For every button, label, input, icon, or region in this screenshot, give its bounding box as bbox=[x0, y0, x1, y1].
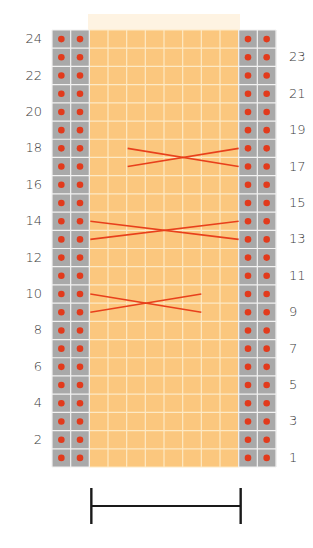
edge-stitch-dot-icon bbox=[58, 72, 65, 79]
edge-stitch-dot-icon bbox=[245, 127, 252, 134]
edge-stitch-dot-icon bbox=[77, 236, 84, 243]
edge-stitch-dot-icon bbox=[245, 218, 252, 225]
edge-stitch-dot-icon bbox=[77, 436, 84, 443]
edge-stitch-dot-icon bbox=[263, 254, 270, 261]
edge-stitch-dot-icon bbox=[77, 109, 84, 116]
top-faint-band bbox=[88, 14, 240, 30]
edge-stitch-dot-icon bbox=[263, 163, 270, 170]
edge-stitch-dot-icon bbox=[245, 418, 252, 425]
row-label-21: 21 bbox=[289, 86, 313, 102]
row-label-18: 18 bbox=[12, 140, 42, 156]
row-label-11: 11 bbox=[289, 268, 313, 284]
edge-stitch-dot-icon bbox=[58, 54, 65, 61]
row-label-6: 6 bbox=[12, 359, 42, 375]
edge-stitch-dot-icon bbox=[263, 218, 270, 225]
row-label-8: 8 bbox=[12, 322, 42, 338]
edge-stitch-dot-icon bbox=[58, 36, 65, 43]
row-label-7: 7 bbox=[289, 341, 313, 357]
edge-stitch-dot-icon bbox=[245, 181, 252, 188]
row-label-5: 5 bbox=[289, 377, 313, 393]
edge-stitch-dot-icon bbox=[263, 181, 270, 188]
edge-stitch-dot-icon bbox=[245, 436, 252, 443]
repeat-bracket bbox=[91, 488, 240, 524]
edge-stitch-dot-icon bbox=[263, 455, 270, 462]
edge-stitch-dot-icon bbox=[263, 345, 270, 352]
edge-stitch-dot-icon bbox=[58, 145, 65, 152]
edge-stitch-dot-icon bbox=[263, 54, 270, 61]
row-label-16: 16 bbox=[12, 177, 42, 193]
row-label-10: 10 bbox=[12, 286, 42, 302]
edge-stitch-dot-icon bbox=[77, 54, 84, 61]
edge-stitch-dot-icon bbox=[58, 218, 65, 225]
edge-stitch-dot-icon bbox=[245, 72, 252, 79]
edge-stitch-dot-icon bbox=[245, 109, 252, 116]
row-label-3: 3 bbox=[289, 413, 313, 429]
row-label-23: 23 bbox=[289, 49, 313, 65]
edge-stitch-dot-icon bbox=[263, 382, 270, 389]
row-label-9: 9 bbox=[289, 304, 313, 320]
edge-stitch-dot-icon bbox=[58, 291, 65, 298]
edge-stitch-dot-icon bbox=[245, 54, 252, 61]
edge-stitch-dot-icon bbox=[77, 364, 84, 371]
edge-stitch-dot-icon bbox=[77, 254, 84, 261]
edge-stitch-dot-icon bbox=[245, 36, 252, 43]
row-label-1: 1 bbox=[289, 450, 313, 466]
row-label-15: 15 bbox=[289, 195, 313, 211]
edge-stitch-dot-icon bbox=[245, 309, 252, 316]
edge-stitch-dot-icon bbox=[58, 200, 65, 207]
edge-stitch-dot-icon bbox=[58, 254, 65, 261]
row-label-14: 14 bbox=[12, 213, 42, 229]
edge-stitch-dot-icon bbox=[263, 418, 270, 425]
knitting-chart bbox=[0, 0, 313, 548]
edge-stitch-dot-icon bbox=[263, 109, 270, 116]
edge-stitch-dot-icon bbox=[245, 145, 252, 152]
row-label-19: 19 bbox=[289, 122, 313, 138]
edge-stitch-dot-icon bbox=[263, 364, 270, 371]
edge-stitch-dot-icon bbox=[77, 200, 84, 207]
edge-stitch-dot-icon bbox=[58, 400, 65, 407]
edge-stitch-dot-icon bbox=[263, 309, 270, 316]
edge-stitch-dot-icon bbox=[77, 327, 84, 334]
edge-stitch-dot-icon bbox=[263, 291, 270, 298]
edge-stitch-dot-icon bbox=[77, 90, 84, 97]
edge-stitch-dot-icon bbox=[245, 455, 252, 462]
edge-stitch-dot-icon bbox=[58, 364, 65, 371]
row-label-20: 20 bbox=[12, 104, 42, 120]
edge-stitch-dot-icon bbox=[245, 273, 252, 280]
edge-stitch-dot-icon bbox=[77, 218, 84, 225]
row-label-22: 22 bbox=[12, 68, 42, 84]
edge-stitch-dot-icon bbox=[245, 90, 252, 97]
edge-stitch-dot-icon bbox=[77, 163, 84, 170]
edge-stitch-dot-icon bbox=[58, 127, 65, 134]
edge-stitch-dot-icon bbox=[77, 382, 84, 389]
edge-stitch-dot-icon bbox=[245, 236, 252, 243]
edge-stitch-dot-icon bbox=[77, 400, 84, 407]
edge-stitch-dot-icon bbox=[245, 400, 252, 407]
edge-stitch-dot-icon bbox=[77, 181, 84, 188]
edge-stitch-dot-icon bbox=[245, 364, 252, 371]
edge-stitch-dot-icon bbox=[58, 418, 65, 425]
edge-stitch-dot-icon bbox=[77, 418, 84, 425]
edge-stitch-dot-icon bbox=[263, 127, 270, 134]
edge-stitch-dot-icon bbox=[58, 345, 65, 352]
edge-stitch-dot-icon bbox=[58, 327, 65, 334]
edge-stitch-dot-icon bbox=[58, 236, 65, 243]
row-label-4: 4 bbox=[12, 395, 42, 411]
edge-stitch-dot-icon bbox=[58, 273, 65, 280]
row-label-12: 12 bbox=[12, 250, 42, 266]
edge-stitch-dot-icon bbox=[245, 291, 252, 298]
edge-stitch-dot-icon bbox=[245, 327, 252, 334]
edge-stitch-dot-icon bbox=[263, 400, 270, 407]
edge-stitch-dot-icon bbox=[245, 200, 252, 207]
edge-stitch-dot-icon bbox=[58, 181, 65, 188]
edge-stitch-dot-icon bbox=[263, 36, 270, 43]
edge-stitch-dot-icon bbox=[58, 455, 65, 462]
row-label-2: 2 bbox=[12, 432, 42, 448]
edge-stitch-dot-icon bbox=[245, 254, 252, 261]
edge-stitch-dot-icon bbox=[245, 163, 252, 170]
edge-stitch-dot-icon bbox=[58, 90, 65, 97]
edge-stitch-dot-icon bbox=[77, 345, 84, 352]
edge-stitch-dot-icon bbox=[245, 382, 252, 389]
edge-stitch-dot-icon bbox=[77, 72, 84, 79]
edge-stitch-dot-icon bbox=[77, 36, 84, 43]
